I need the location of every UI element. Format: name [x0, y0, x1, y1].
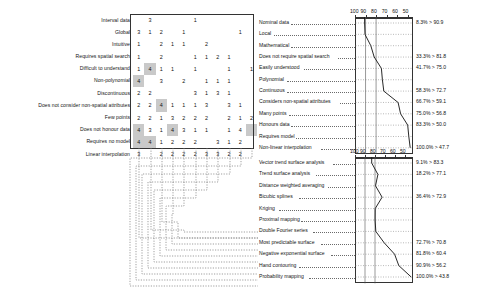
matrix-cell — [223, 38, 234, 50]
matrix-cells: 12112 — [133, 38, 257, 50]
matrix-cell — [178, 63, 189, 75]
matrix-cell: 1 — [167, 63, 178, 75]
matrix-cell: 1 — [178, 26, 189, 38]
matrix-cells: 2213222212 — [133, 112, 257, 124]
matrix-row-label: Difficult to understand — [0, 66, 133, 71]
chart-item-label: Considers non-spatial attributes — [259, 96, 331, 107]
chart-item-label: Requires model — [259, 131, 295, 142]
matrix-cell — [235, 63, 246, 75]
matrix-row-label: Interval data — [0, 18, 133, 23]
matrix-cell: 1 — [133, 63, 144, 75]
matrix-cell: 3 — [156, 75, 167, 87]
matrix-cell: 1 — [189, 14, 200, 26]
matrix-cell — [212, 124, 223, 136]
matrix-cell: 2 — [144, 87, 155, 99]
matrix-cell: 1 — [201, 51, 212, 63]
matrix-cell: 1 — [178, 38, 189, 50]
matrix-cell — [212, 112, 223, 124]
threshold-value: 18.2% > 77.1 — [416, 168, 446, 179]
matrix-cell: 1 — [223, 124, 234, 136]
matrix-cell: 2 — [156, 38, 167, 50]
matrix-cell — [189, 75, 200, 87]
matrix-row-label: Linear interpolation — [0, 152, 133, 157]
matrix-cell — [156, 87, 167, 99]
matrix-row: Discontinuous223131 — [0, 87, 257, 99]
leader-dots — [291, 126, 355, 127]
matrix-cell — [201, 14, 212, 26]
matrix-cell — [235, 38, 246, 50]
chart-label-row: Proximal mapping — [255, 214, 355, 225]
matrix-cell: 2 — [189, 112, 200, 124]
matrix-cell — [189, 26, 200, 38]
chart-label-row: Most predictable surface — [255, 237, 355, 248]
matrix-cell: 1 — [156, 124, 167, 136]
matrix-cell: 2 — [144, 99, 155, 111]
threshold-value: 58.3% > 72.7 — [416, 85, 446, 96]
matrix-cell — [212, 63, 223, 75]
matrix-cell — [144, 75, 155, 87]
figure-root: Interval data31Global31211Intuitive12112… — [0, 0, 477, 292]
chart-label-row: Local — [255, 28, 355, 39]
chart-item-label: Honours data — [259, 119, 290, 130]
matrix-row: Difficult to understand1411111 — [0, 63, 257, 75]
matrix-cell: 1 — [189, 124, 200, 136]
chart-item-label: Does not require spatial search — [259, 51, 330, 62]
similarity-matrix: Interval data31Global31211Intuitive12112… — [0, 14, 257, 160]
matrix-cell — [212, 26, 223, 38]
chart-item-label: Proximal mapping — [259, 214, 300, 225]
matrix-row-label: Does not consider non-spatial attributes — [0, 103, 133, 108]
threshold-value: 100.0% > 47.7 — [416, 142, 449, 153]
matrix-cell: 1 — [189, 51, 200, 63]
chart-label-row: Polynomial — [255, 74, 355, 85]
matrix-cell: 1 — [201, 124, 212, 136]
matrix-cell: 2 — [167, 136, 178, 148]
matrix-cell: 2 — [144, 112, 155, 124]
matrix-row: Global31211 — [0, 26, 257, 38]
matrix-cell: 3 — [144, 124, 155, 136]
matrix-row-label: Requires spatial search — [0, 54, 133, 59]
matrix-cells: 31211 — [133, 26, 257, 38]
chart-label-row: Negative exponential surface — [255, 248, 355, 259]
matrix-cell: 1 — [144, 26, 155, 38]
threshold-value: 72.7% > 70.8 — [416, 237, 446, 248]
matrix-cell: 1 — [223, 75, 234, 87]
matrix-cell: 1 — [189, 99, 200, 111]
matrix-cell — [201, 63, 212, 75]
matrix-row-label: Discontinuous — [0, 91, 133, 96]
matrix-cell: 4 — [167, 124, 178, 136]
chart-item-label: Local — [259, 28, 271, 39]
matrix-cell: 4 — [144, 63, 155, 75]
chart-item-label: Many points — [259, 108, 286, 119]
leader-dots — [289, 115, 355, 116]
threshold-value: 66.7% > 59.1 — [416, 96, 446, 107]
matrix-cell: 1 — [212, 75, 223, 87]
matrix-cell: 3 — [212, 87, 223, 99]
cluster-curve — [372, 157, 412, 277]
leader-dots — [309, 278, 355, 279]
matrix-cell — [212, 38, 223, 50]
leader-dots — [296, 138, 355, 139]
matrix-row: Does not consider non-spatial attributes… — [0, 99, 257, 111]
matrix-cell: 3 — [201, 99, 212, 111]
matrix-cell: 1 — [133, 38, 144, 50]
matrix-cell: 1 — [189, 63, 200, 75]
threshold-value: 33.3% > 81.8 — [416, 51, 446, 62]
leader-dots — [299, 198, 355, 199]
matrix-bracket-connectors — [128, 148, 258, 288]
matrix-cell: 2 — [178, 75, 189, 87]
matrix-cell: 1 — [223, 51, 234, 63]
matrix-cell: 4 — [133, 75, 144, 87]
matrix-cell: 3 — [167, 112, 178, 124]
chart-label-row: Honours data — [255, 119, 355, 130]
matrix-cell — [178, 14, 189, 26]
matrix-cell: 1 — [156, 63, 167, 75]
matrix-cell: 3 — [189, 87, 200, 99]
matrix-cells: 121121 — [133, 51, 257, 63]
chart-item-label: Probability mapping — [259, 271, 304, 282]
chart-label-row: Bicubic splines — [255, 191, 355, 202]
matrix-cell: 1 — [201, 87, 212, 99]
matrix-cell: 1 — [156, 112, 167, 124]
matrix-row-label: Non-polynomial — [0, 78, 133, 83]
matrix-row: Intuitive12112 — [0, 38, 257, 50]
leader-dots — [304, 69, 355, 70]
